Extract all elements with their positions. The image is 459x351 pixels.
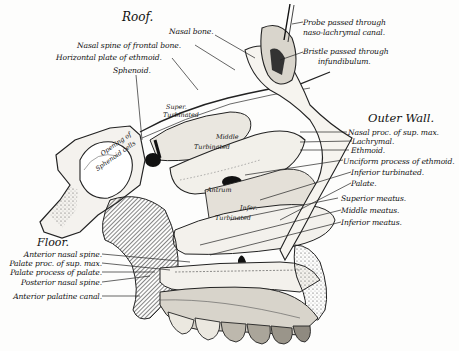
label-middle-meatus: Middle meatus. xyxy=(341,206,399,215)
inline-super-turbinated-1: Super. xyxy=(166,103,187,111)
inline-super-turbinated-2: Turbinated xyxy=(163,111,199,119)
label-probe-line1: Probe passed through xyxy=(303,18,386,27)
label-ethmoid: Ethmoid. xyxy=(351,146,385,155)
label-posterior-nasal-spine: Posterior nasal spine. xyxy=(21,278,102,287)
inline-antrum: Antrum xyxy=(207,186,232,194)
label-anterior-nasal-spine: Anterior nasal spine. xyxy=(24,250,102,259)
label-palate: Palate. xyxy=(351,179,377,188)
label-nasal-bone: Nasal bone. xyxy=(169,27,214,36)
label-inferior-meatus: Inferior meatus. xyxy=(341,218,402,227)
inline-middle-turbinated-1: Middle xyxy=(216,133,239,141)
heading-roof: Roof. xyxy=(122,10,153,24)
label-lachrymal: Lachrymal. xyxy=(352,137,394,146)
label-nasal-spine-frontal: Nasal spine of frontal bone. xyxy=(77,41,181,50)
label-sphenoid: Sphenoid. xyxy=(113,66,151,75)
label-bristle-line1: Bristle passed through xyxy=(303,47,388,56)
label-palate-process-palate: Palate process of palate. xyxy=(10,268,102,277)
label-superior-meatus: Superior meatus. xyxy=(341,194,406,203)
label-unciform-process: Unciform process of ethmoid. xyxy=(343,157,455,166)
label-anterior-palatine-canal: Anterior palatine canal. xyxy=(13,292,102,301)
inline-middle-turbinated-2: Turbinated xyxy=(194,143,230,151)
label-nasal-proc-sup-max: Nasal proc. of sup. max. xyxy=(348,128,439,137)
label-inferior-turbinated: Inferior turbinated. xyxy=(351,168,424,177)
label-horizontal-plate-ethmoid: Horizontal plate of ethmoid. xyxy=(56,53,162,62)
inline-infer-turbinated-2: Turbinated xyxy=(215,214,251,222)
heading-outer-wall: Outer Wall. xyxy=(368,111,434,125)
inline-infer-turbinated-1: Infer. xyxy=(240,204,257,212)
label-probe-line2: naso-lachrymal canal. xyxy=(303,28,385,37)
label-bristle-line2: infundibulum. xyxy=(318,57,371,66)
anatomical-figure: Roof. Outer Wall. Floor. Nasal bone. Nas… xyxy=(0,0,459,351)
label-palate-proc-sup-max: Palate proc. of sup. max. xyxy=(9,259,102,268)
heading-floor: Floor. xyxy=(37,236,69,249)
